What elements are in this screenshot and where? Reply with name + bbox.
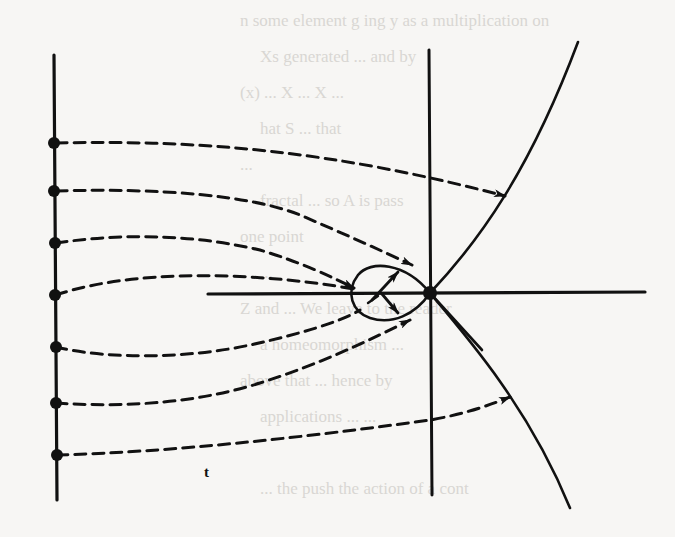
phase-diagram bbox=[0, 0, 675, 537]
lower-separatrix-curve bbox=[430, 293, 570, 508]
initial-point-5 bbox=[50, 341, 62, 353]
trajectory-1 bbox=[56, 143, 505, 196]
trajectory-7 bbox=[57, 397, 510, 455]
origin-node bbox=[423, 286, 437, 300]
left-vertical-axis bbox=[54, 55, 57, 500]
axis-label-t: t bbox=[204, 464, 209, 481]
loop-inner-arrow-down bbox=[382, 294, 398, 313]
trajectory-5 bbox=[56, 310, 360, 356]
upper-separatrix-curve bbox=[430, 42, 578, 293]
initial-point-2 bbox=[48, 185, 60, 197]
trajectory-6 bbox=[56, 320, 410, 405]
trajectory-2 bbox=[56, 190, 412, 265]
initial-point-3 bbox=[49, 237, 61, 249]
trajectory-3 bbox=[56, 237, 354, 288]
initial-point-4 bbox=[49, 289, 61, 301]
center-vertical-axis bbox=[429, 50, 432, 495]
initial-point-6 bbox=[50, 397, 62, 409]
lower-diagonal-ray bbox=[430, 293, 482, 350]
initial-point-1 bbox=[48, 137, 60, 149]
initial-point-7 bbox=[51, 449, 63, 461]
